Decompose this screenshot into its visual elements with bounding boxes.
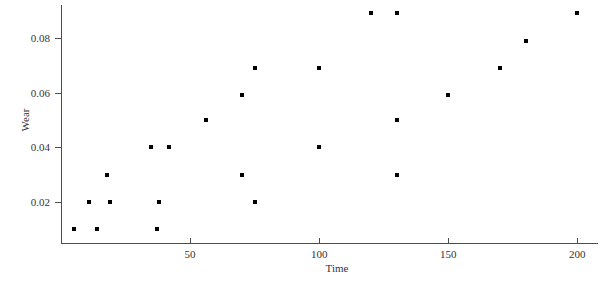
x-tick-mark bbox=[319, 238, 320, 244]
x-tick-label: 50 bbox=[185, 249, 196, 260]
data-point bbox=[498, 66, 502, 70]
data-point bbox=[369, 11, 373, 15]
data-point bbox=[253, 66, 257, 70]
y-axis-line bbox=[61, 5, 62, 243]
y-tick-label: 0.08 bbox=[0, 32, 50, 43]
data-point bbox=[395, 173, 399, 177]
data-point bbox=[149, 145, 153, 149]
x-tick-label: 150 bbox=[440, 249, 457, 260]
y-tick-label: 0.06 bbox=[0, 87, 50, 98]
data-point bbox=[72, 227, 76, 231]
data-point bbox=[105, 173, 109, 177]
y-tick-label: 0.02 bbox=[0, 196, 50, 207]
data-point bbox=[317, 145, 321, 149]
data-point bbox=[108, 200, 112, 204]
data-point bbox=[87, 200, 91, 204]
data-point bbox=[240, 93, 244, 97]
x-tick-mark bbox=[190, 238, 191, 244]
x-axis-label: Time bbox=[326, 262, 349, 274]
data-point bbox=[395, 118, 399, 122]
data-point bbox=[446, 93, 450, 97]
data-point bbox=[167, 145, 171, 149]
x-tick-mark bbox=[577, 238, 578, 244]
x-tick-label: 200 bbox=[569, 249, 586, 260]
data-point bbox=[575, 11, 579, 15]
y-tick-mark bbox=[55, 93, 61, 94]
data-point bbox=[253, 200, 257, 204]
x-tick-mark bbox=[448, 238, 449, 244]
data-point bbox=[524, 39, 528, 43]
y-tick-label: 0.04 bbox=[0, 142, 50, 153]
data-point bbox=[157, 200, 161, 204]
y-axis-label: Wear bbox=[19, 109, 31, 132]
data-point bbox=[240, 173, 244, 177]
data-point bbox=[155, 227, 159, 231]
y-tick-mark bbox=[55, 38, 61, 39]
scatter-plot: 0.020.040.060.08 50100150200 Time Wear bbox=[0, 0, 600, 287]
data-point bbox=[395, 11, 399, 15]
y-tick-mark bbox=[55, 202, 61, 203]
y-tick-mark bbox=[55, 147, 61, 148]
data-point bbox=[95, 227, 99, 231]
x-tick-label: 100 bbox=[311, 249, 328, 260]
x-axis-line bbox=[61, 243, 598, 244]
data-point bbox=[204, 118, 208, 122]
data-point bbox=[317, 66, 321, 70]
